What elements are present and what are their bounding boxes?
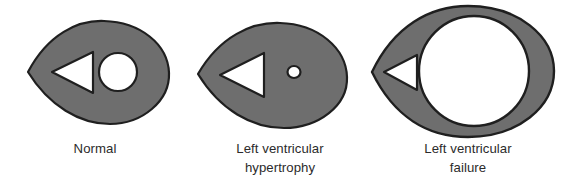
normal-heart-cross-section-svg: [0, 0, 190, 140]
ventricle-comparison-figure: Normal Left ventricular hypertrophy: [0, 0, 568, 196]
panel-failure: Left ventricular failure: [368, 0, 568, 196]
caption-hypertrophy: Left ventricular hypertrophy: [186, 139, 374, 177]
diagram-failure: [368, 0, 568, 140]
hypertrophy-heart-cross-section-svg: [186, 0, 374, 140]
caption-hypertrophy-line2: hypertrophy: [186, 158, 374, 177]
panel-normal: Normal: [0, 0, 190, 196]
caption-normal-line1: Normal: [0, 139, 190, 158]
diagram-normal: [0, 0, 190, 140]
failure-heart-cross-section-svg: [368, 0, 568, 140]
caption-normal: Normal: [0, 139, 190, 158]
panel-hypertrophy: Left ventricular hypertrophy: [186, 0, 374, 196]
caption-failure: Left ventricular failure: [368, 139, 568, 177]
left-ventricle-dilated-lumen: [419, 16, 529, 126]
left-ventricle-circle-lumen: [99, 53, 137, 91]
left-ventricle-circle-lumen: [288, 66, 301, 78]
caption-failure-line2: failure: [368, 158, 568, 177]
caption-hypertrophy-line1: Left ventricular: [186, 139, 374, 158]
caption-failure-line1: Left ventricular: [368, 139, 568, 158]
diagram-hypertrophy: [186, 0, 374, 140]
